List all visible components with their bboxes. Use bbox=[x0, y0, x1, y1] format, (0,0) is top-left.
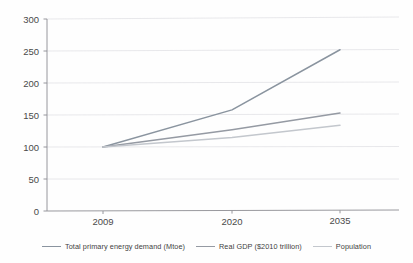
legend-label: Total primary energy demand (Mtoe) bbox=[65, 242, 185, 251]
x-axis bbox=[47, 210, 399, 214]
x-axis-line bbox=[47, 210, 399, 211]
gridline-250 bbox=[47, 50, 399, 52]
y-axis-label-150: 150 bbox=[23, 110, 39, 121]
legend-item-real-gdp[interactable]: Real GDP ($2010 trillion) bbox=[196, 242, 302, 251]
legend-swatch-line-icon bbox=[196, 246, 215, 247]
gridline-150 bbox=[47, 114, 399, 115]
gridline-300 bbox=[47, 17, 399, 19]
series-line-real-gdp-2010-trillion bbox=[103, 113, 340, 147]
x-axis-label-2020: 2020 bbox=[221, 216, 242, 227]
y-axis-label-250: 250 bbox=[23, 46, 39, 57]
y-axis-labels: 300 250 200 150 100 50 0 bbox=[23, 14, 39, 217]
x-axis-labels: 2009 2020 2035 bbox=[92, 215, 350, 227]
y-axis-label-300: 300 bbox=[23, 14, 39, 25]
x-axis-label-2035: 2035 bbox=[329, 215, 350, 226]
chart-canvas: 300 250 200 150 100 50 0 2009 2020 2035 bbox=[0, 0, 413, 232]
y-axis-label-50: 50 bbox=[28, 174, 39, 185]
gridline-200 bbox=[47, 82, 399, 83]
data-series-group bbox=[103, 50, 340, 147]
series-line-total-primary-energy-demand-mtoe bbox=[103, 50, 340, 147]
plot-area: 300 250 200 150 100 50 0 2009 2020 2035 bbox=[0, 0, 413, 232]
x-axis-label-2009: 2009 bbox=[92, 216, 113, 227]
y-axis-label-100: 100 bbox=[23, 142, 39, 153]
legend-item-population[interactable]: Population bbox=[313, 242, 371, 251]
gridlines bbox=[47, 17, 399, 179]
y-axis-label-200: 200 bbox=[23, 78, 39, 89]
y-axis-label-0: 0 bbox=[34, 206, 39, 217]
legend-label: Real GDP ($2010 trillion) bbox=[219, 242, 302, 251]
legend-swatch-line-icon bbox=[42, 246, 61, 247]
y-axis bbox=[44, 19, 48, 211]
legend-swatch-line-icon bbox=[313, 246, 332, 247]
gridline-100 bbox=[47, 147, 399, 148]
line-chart: 300 250 200 150 100 50 0 2009 2020 2035 bbox=[0, 0, 413, 263]
legend-label: Population bbox=[336, 242, 371, 251]
chart-legend: Total primary energy demand (Mtoe) Real … bbox=[0, 233, 413, 259]
legend-item-total-primary-energy-demand[interactable]: Total primary energy demand (Mtoe) bbox=[42, 242, 185, 251]
